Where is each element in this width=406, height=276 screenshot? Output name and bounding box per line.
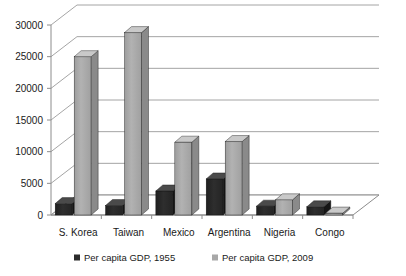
gridline [51,5,379,25]
bar-front-face [307,207,324,215]
bar-front-face [106,206,123,216]
bar-2009 [74,51,98,215]
y-axis-tick-labels: 050001000015000200002500030000 [15,20,43,221]
bar-front-face [74,57,91,215]
x-axis-category-labels: S. KoreaTaiwanMexicoArgentinaNigeriaCong… [59,227,345,238]
legend-swatch-square-marker [212,255,218,261]
y-axis-tick-label: 25000 [15,51,43,62]
bar-chart: 050001000015000200002500030000 S. KoreaT… [0,0,406,276]
bar-2009 [125,27,149,215]
bar-front-face [276,200,293,215]
y-axis-tick-label: 20000 [15,83,43,94]
chart-canvas: 050001000015000200002500030000 S. KoreaT… [0,0,406,276]
chart-legend: Per capita GDP, 1955Per capita GDP, 2009 [74,252,313,263]
y-axis-tick-label: 30000 [15,20,43,31]
y-axis-tick-label: 0 [37,210,43,221]
gridline [51,132,379,152]
bar-2009 [175,136,199,215]
y-axis-tick-label: 15000 [15,115,43,126]
bar-side-face [142,27,149,215]
gridline [51,68,379,88]
bar-front-face [55,204,72,215]
bar-front-face [206,179,223,215]
x-axis-category-label: Argentina [208,227,251,238]
gridline [51,100,379,120]
bar-side-face [192,136,199,215]
x-axis-category-label: Mexico [163,227,195,238]
legend-item[interactable]: Per capita GDP, 2009 [212,252,313,263]
y-axis-tick-label: 10000 [15,146,43,157]
legend-item[interactable]: Per capita GDP, 1955 [74,252,175,263]
x-axis-category-label: Congo [315,227,345,238]
gridline [51,37,379,57]
x-axis-category-label: Taiwan [113,227,144,238]
bar-2009 [225,136,249,215]
bar-2009 [276,194,300,215]
bar-front-face [257,206,274,215]
legend-label: Per capita GDP, 2009 [222,252,313,263]
bar-side-face [91,51,98,215]
bar-front-face [225,142,242,215]
x-axis-category-label: Nigeria [264,227,296,238]
x-axis-category-label: S. Korea [59,227,98,238]
bar-front-face [326,213,343,215]
bar-front-face [175,142,192,215]
bar-side-face [242,136,249,215]
bars [55,27,350,215]
bar-front-face [125,33,142,215]
bar-front-face [156,191,173,215]
legend-swatch-square-marker [74,255,80,261]
y-axis-tick-label: 5000 [21,178,44,189]
legend-label: Per capita GDP, 1955 [84,252,175,263]
